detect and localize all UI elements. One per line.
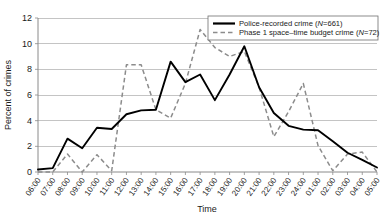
y-tick-label: 8 — [27, 64, 32, 74]
series-line-space-time-budget — [38, 30, 377, 172]
x-tick-label: 05:00 — [363, 176, 382, 198]
chart-container: 024681012 06:0007:0008:0009:0010:0011:00… — [0, 0, 391, 221]
legend-label-police-recorded: Police-recorded crime (N=661) — [239, 19, 343, 28]
y-tick-label: 10 — [22, 39, 32, 49]
y-tick-label: 4 — [27, 116, 32, 126]
chart-legend: Police-recorded crime (N=661) Phase 1 sp… — [208, 16, 380, 40]
series-line-police-recorded — [38, 46, 377, 169]
y-axis-title: Percent of crimes — [3, 59, 13, 130]
line-chart: 024681012 06:0007:0008:0009:0010:0011:00… — [0, 0, 391, 221]
y-tick-label: 6 — [27, 90, 32, 100]
y-tick-label: 12 — [22, 13, 32, 23]
x-tick-label: 10:00 — [83, 176, 102, 198]
x-axis-title: Time — [197, 204, 217, 214]
legend-label-space-time-budget: Phase 1 space–time budget crime (N=72) — [239, 28, 380, 37]
y-tick-label: 0 — [27, 167, 32, 177]
x-axis-tick-labels: 06:0007:0008:0009:0010:0011:0012:0013:00… — [24, 176, 382, 198]
y-tick-label: 2 — [27, 141, 32, 151]
y-axis-ticks: 024681012 — [22, 13, 38, 177]
